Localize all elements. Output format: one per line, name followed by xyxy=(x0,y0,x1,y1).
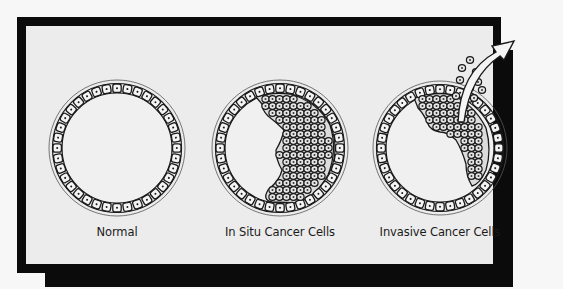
label-invasive: Invasive Cancer Cells xyxy=(380,225,501,239)
duct-in-situ xyxy=(212,80,348,216)
illustration xyxy=(0,0,563,289)
duct-normal xyxy=(49,80,185,216)
duct-invasive xyxy=(373,81,507,215)
label-normal: Normal xyxy=(96,225,137,239)
label-in-situ: In Situ Cancer Cells xyxy=(225,225,335,239)
